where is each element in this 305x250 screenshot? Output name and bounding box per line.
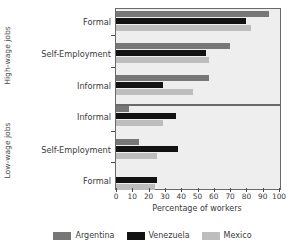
bar-high-selfemployment-venezuela — [116, 50, 206, 56]
minor-tick — [111, 67, 115, 68]
category-label-low-informal: Informal — [0, 112, 111, 122]
legend-item-venezuela[interactable]: Venezuela — [127, 231, 190, 240]
legend: ArgentinaVenezuelaMexico — [0, 231, 305, 240]
bar-low-selfemployment-mexico — [116, 153, 157, 159]
category-label-high-formal: Formal — [0, 17, 111, 27]
x-tick-label: 100 — [269, 192, 289, 201]
bar-high-selfemployment-argentina — [116, 43, 230, 49]
bar-high-informal-argentina — [116, 75, 209, 81]
bar-high-formal-mexico — [116, 25, 251, 31]
legend-item-argentina[interactable]: Argentina — [53, 231, 114, 240]
legend-label: Argentina — [75, 231, 114, 240]
bar-high-informal-mexico — [116, 89, 193, 95]
bar-low-informal-argentina — [116, 106, 129, 112]
minor-tick — [111, 162, 115, 163]
x-axis-title: Percentage of workers — [115, 204, 279, 213]
legend-item-mexico[interactable]: Mexico — [202, 231, 252, 240]
bar-high-informal-venezuela — [116, 82, 163, 88]
bar-low-formal-venezuela — [116, 177, 157, 183]
legend-swatch-argentina — [53, 232, 71, 240]
bar-low-informal-mexico — [116, 120, 163, 126]
bar-high-selfemployment-mexico — [116, 57, 209, 63]
bar-low-selfemployment-argentina — [116, 139, 139, 145]
category-label-high-selfemp: Self-Employment — [0, 49, 111, 59]
legend-label: Venezuela — [149, 231, 190, 240]
legend-label: Mexico — [224, 231, 252, 240]
bar-high-formal-venezuela — [116, 18, 246, 24]
bar-low-selfemployment-venezuela — [116, 146, 178, 152]
bar-high-formal-argentina — [116, 11, 269, 17]
bar-low-informal-venezuela — [116, 113, 176, 119]
grouped-bar-chart: High-wage jobs Low-wage jobs Formal Self… — [0, 0, 305, 250]
legend-swatch-venezuela — [127, 232, 145, 240]
category-label-high-informal: Informal — [0, 81, 111, 91]
legend-swatch-mexico — [202, 232, 220, 240]
category-label-low-formal: Formal — [0, 176, 111, 186]
minor-tick — [111, 35, 115, 36]
category-label-low-selfemp: Self-Employment — [0, 145, 111, 155]
minor-tick — [111, 131, 115, 132]
